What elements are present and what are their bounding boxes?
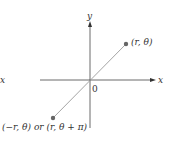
edge-fragment-label: x: [0, 75, 5, 85]
polar-diagram: x y x 0 (r, θ) (−r, θ) or (r, θ + π): [0, 0, 171, 142]
origin-label: 0: [92, 84, 98, 94]
ray-line: [53, 44, 126, 118]
point-r-theta: [124, 42, 128, 46]
point-neg-r-theta: [51, 116, 55, 120]
x-axis-label: x: [158, 75, 163, 85]
x-axis-arrow-icon: [150, 78, 156, 82]
y-axis-arrow-icon: [88, 21, 92, 27]
point-neg-r-theta-label: (−r, θ) or (r, θ + π): [2, 122, 88, 132]
point-r-theta-label: (r, θ): [131, 37, 153, 47]
y-axis-label: y: [86, 11, 93, 21]
